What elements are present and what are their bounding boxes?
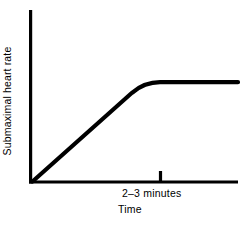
y-axis-label-text: Submaximal heart rate <box>1 47 13 156</box>
chart-figure: Submaximal heart rate 2–3 minutes Time <box>0 0 247 227</box>
heart-rate-response-curve <box>33 82 239 181</box>
x-axis-label: Time <box>118 203 142 215</box>
x-axis-tick-label: 2–3 minutes <box>122 187 181 199</box>
y-axis-label: Submaximal heart rate <box>0 45 14 157</box>
